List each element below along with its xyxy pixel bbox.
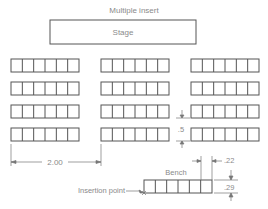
bench-label: Bench — [165, 168, 186, 177]
bench-block — [144, 180, 212, 193]
bench-block — [11, 128, 79, 141]
bench-block — [101, 59, 169, 72]
bench-block — [11, 82, 79, 95]
insertion-point-leader — [126, 190, 144, 193]
column-spacing-value: 2.00 — [47, 158, 63, 167]
bench-array — [11, 59, 259, 141]
bench-example — [144, 180, 212, 193]
drawing-canvas: Multiple insert Stage .5 2.00 Bench .22 — [0, 0, 268, 209]
bench-block — [101, 128, 169, 141]
bench-block — [191, 128, 259, 141]
stage: Stage — [50, 20, 196, 44]
seat-width-dimension — [192, 156, 222, 180]
bench-block — [101, 82, 169, 95]
bench-block — [191, 82, 259, 95]
bench-block — [101, 105, 169, 118]
row-spacing-value: .5 — [178, 125, 184, 134]
seat-width-value: .22 — [224, 156, 234, 165]
bench-block — [11, 105, 79, 118]
insertion-point-label: Insertion point — [78, 186, 126, 195]
stage-label: Stage — [113, 28, 134, 37]
bench-block — [191, 105, 259, 118]
bench-height-value: .29 — [224, 183, 234, 192]
title-label: Multiple insert — [109, 6, 159, 15]
bench-block — [11, 59, 79, 72]
bench-block — [191, 59, 259, 72]
